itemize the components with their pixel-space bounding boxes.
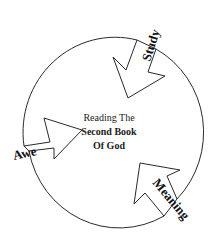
study-label: Study xyxy=(139,27,163,63)
center-line-1: Reading The xyxy=(83,112,135,123)
cycle-diagram: Study Awe Meaning Reading The Second Boo… xyxy=(0,0,218,242)
center-title: Reading The Second Book Of God xyxy=(81,112,137,151)
awe-label: Awe xyxy=(12,143,38,163)
center-line-3: Of God xyxy=(93,140,125,151)
center-line-2: Second Book xyxy=(81,126,137,137)
